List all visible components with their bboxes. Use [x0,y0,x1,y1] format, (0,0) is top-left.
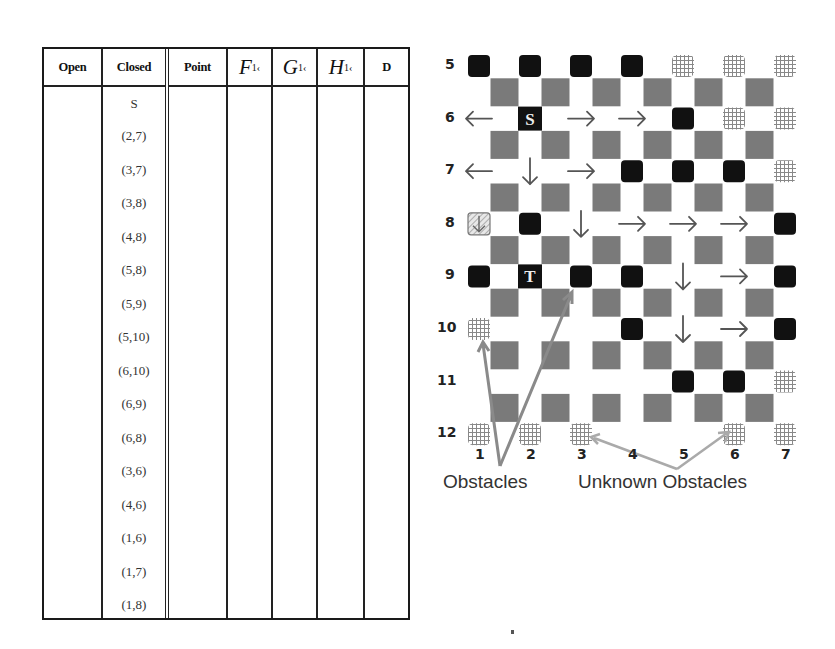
gray-square [644,289,672,317]
gray-square [593,341,621,369]
gray-square [542,236,570,264]
grid-map: ST [0,0,835,649]
arrow-right-icon [568,112,594,126]
target-node-label: T [524,267,536,286]
row-label: 8 [445,214,455,230]
gray-square [746,236,774,264]
gray-square [695,394,723,422]
obstacle-node [468,55,490,77]
col-label: 5 [679,446,689,462]
arrow-right-icon [721,322,747,336]
row-label: 11 [437,372,456,388]
gray-square [644,78,672,106]
unknown-obstacle-node [519,423,541,445]
arrow-down-icon [574,211,588,237]
gray-square [593,78,621,106]
col-label: 6 [730,446,740,462]
obstacle-node [672,371,694,393]
gray-square [695,289,723,317]
row-label: 6 [445,109,455,125]
obstacle-node [621,160,643,182]
row-label: 10 [437,319,456,335]
gray-square [491,289,519,317]
gray-square [644,131,672,159]
gray-square [746,394,774,422]
gray-square [491,341,519,369]
obstacle-node [519,55,541,77]
obstacle-node [621,318,643,340]
unknown-obstacle-node [723,55,745,77]
obstacle-node [672,108,694,130]
gray-square [491,78,519,106]
obstacle-node [723,371,745,393]
gray-square [542,394,570,422]
gray-square [491,236,519,264]
arrow-right-icon [670,217,696,231]
unknown-obstacle-node [774,55,796,77]
gray-square [644,341,672,369]
col-label: 7 [781,446,791,462]
gray-square [593,289,621,317]
obstacles-caption: Obstacles [443,471,527,493]
gray-square [695,236,723,264]
row-label: 9 [445,266,455,282]
start-node-label: S [525,110,534,129]
arrow-down-icon [523,158,537,184]
arrow-down-icon [676,263,690,289]
arrow-right-icon [568,164,594,178]
gray-square [695,184,723,212]
obstacle-node [468,265,490,287]
arrow-right-icon [619,112,645,126]
unknown-obstacles-caption: Unknown Obstacles [578,471,747,493]
gray-square [644,394,672,422]
gray-square [746,78,774,106]
unknown-obstacle-node [774,371,796,393]
stray-dot [511,630,514,634]
unknown-obstacle-node [570,423,592,445]
obstacle-node [519,213,541,235]
arrow-down-icon [676,316,690,342]
obstacle-node [621,265,643,287]
unknown-obstacle-node [468,318,490,340]
arrow-left-icon [466,164,492,178]
unknown-obstacle-node [723,108,745,130]
unknown-obstacle-node [672,55,694,77]
col-label: 2 [526,446,536,462]
arrow-right-icon [619,217,645,231]
gray-square [644,236,672,264]
gray-square [695,78,723,106]
row-label: 5 [445,56,455,72]
gray-square [542,78,570,106]
arrow-left-icon [466,112,492,126]
gray-square [593,236,621,264]
gray-square [593,184,621,212]
gray-square [542,184,570,212]
col-label: 3 [577,446,587,462]
obstacle-node [774,265,796,287]
obstacle-node [723,160,745,182]
obstacle-node [621,55,643,77]
gray-square [593,394,621,422]
gray-square [593,131,621,159]
gray-square [491,184,519,212]
unknown-obstacle-node [774,160,796,182]
unknown-obstacle-node [774,108,796,130]
obstacle-node [570,265,592,287]
gray-square [695,341,723,369]
arrow-right-icon [721,269,747,283]
col-label: 4 [628,446,638,462]
gray-square [746,131,774,159]
gray-square [644,184,672,212]
gray-square [542,131,570,159]
col-label: 1 [475,446,485,462]
unknown-obstacle-node [774,423,796,445]
row-label: 7 [445,161,455,177]
gray-square [746,289,774,317]
gray-square [746,184,774,212]
gray-square [695,131,723,159]
obstacle-node [774,318,796,340]
gray-square [746,341,774,369]
row-label: 12 [437,424,456,440]
unknown-obstacle-node [468,423,490,445]
arrow-right-icon [721,217,747,231]
